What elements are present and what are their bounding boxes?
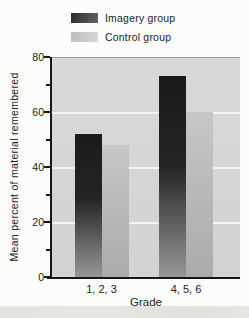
y-tick-major-80 [44, 56, 50, 58]
y-tick-label-40: 40 [14, 162, 44, 172]
imagery-group-swatch [71, 13, 98, 23]
legend-label-imagery: Imagery group [105, 12, 175, 24]
x-axis-line [47, 277, 240, 279]
y-tick-label-60: 60 [14, 107, 44, 117]
bar-imagery-group-1 [75, 134, 102, 277]
bar-chart-figure: Imagery group Control group Mean percent… [0, 0, 249, 318]
legend-label-control: Control group [105, 31, 171, 43]
y-tick-minor-70 [46, 84, 50, 86]
y-tick-major-20 [44, 221, 50, 223]
control-group-swatch [71, 32, 98, 42]
x-tick-label-1: 1, 2, 3 [86, 283, 117, 295]
bar-imagery-group-2 [159, 76, 186, 277]
y-tick-label-0: 0 [14, 272, 44, 282]
y-tick-major-40 [44, 166, 50, 168]
x-tick-label-2: 4, 5, 6 [171, 283, 202, 295]
y-tick-major-60 [44, 111, 50, 113]
page-scan-strip [0, 306, 249, 318]
bar-control-group-1 [102, 145, 129, 277]
legend-item-imagery-group: Imagery group [71, 12, 241, 23]
y-tick-minor-10 [46, 249, 50, 251]
legend: Imagery group Control group [71, 12, 241, 50]
y-tick-major-0 [44, 276, 50, 278]
legend-item-control-group: Control group [71, 31, 241, 42]
y-tick-minor-30 [46, 194, 50, 196]
y-tick-label-20: 20 [14, 217, 44, 227]
y-tick-minor-50 [46, 139, 50, 141]
bar-control-group-2 [186, 112, 213, 277]
plot-area [52, 57, 240, 277]
y-tick-label-80: 80 [14, 52, 44, 62]
